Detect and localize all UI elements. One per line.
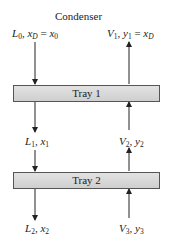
stream-vapor-2: V2, y2 bbox=[119, 135, 144, 151]
stream-top-vapor: V1, y1 = xD bbox=[107, 27, 154, 43]
tray-2: Tray 2 bbox=[13, 172, 160, 189]
stream-vapor-3: V3, y3 bbox=[119, 222, 144, 238]
stream-liquid-1: L1, x1 bbox=[25, 135, 49, 151]
stream-liquid-2: L2, x2 bbox=[25, 222, 49, 238]
stream-top-liquid: L0, xD = x0 bbox=[12, 27, 58, 43]
tray-1: Tray 1 bbox=[13, 85, 160, 102]
condenser-label: Condenser bbox=[55, 10, 102, 22]
